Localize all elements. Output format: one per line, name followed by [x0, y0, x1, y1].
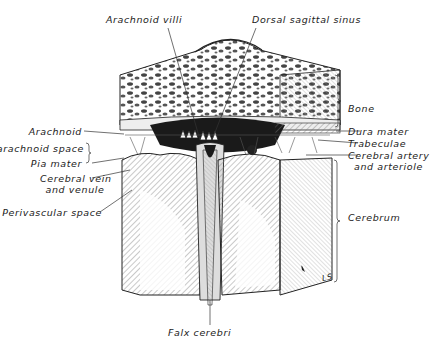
right-hemisphere-block: [218, 154, 332, 295]
label-dorsal-sagittal-sinus: Dorsal sagittal sinus: [252, 14, 361, 25]
label-subarachnoid-space: Subarachnoid space: [0, 143, 84, 154]
label-bone: Bone: [348, 103, 375, 114]
label-cerebral-artery-line2: and arteriole: [354, 161, 423, 172]
label-perivascular-space: Perivascular space: [2, 207, 102, 218]
label-trabeculae: Trabeculae: [348, 138, 406, 149]
label-arachnoid-villi: Arachnoid villi: [106, 14, 182, 25]
label-cerebral-vein: Cerebral vein: [40, 173, 110, 184]
label-dura-mater: Dura mater: [348, 126, 409, 137]
label-cerebrum: Cerebrum: [348, 212, 400, 223]
anatomical-diagram: Arachnoid villi Dorsal sagittal sinus Ar…: [0, 0, 437, 350]
label-cerebral-artery: Cerebral artery: [348, 150, 429, 161]
dura-layer: [120, 116, 340, 155]
bone-layer: [120, 39, 340, 125]
artist-signature: LS: [321, 271, 333, 284]
label-cerebral-vein-line2: and venule: [40, 184, 110, 195]
label-pia-mater: Pia mater: [31, 158, 82, 169]
label-falx-cerebri: Falx cerebri: [168, 327, 231, 338]
label-arachnoid: Arachnoid: [29, 126, 82, 137]
left-hemisphere-block: [122, 153, 200, 295]
